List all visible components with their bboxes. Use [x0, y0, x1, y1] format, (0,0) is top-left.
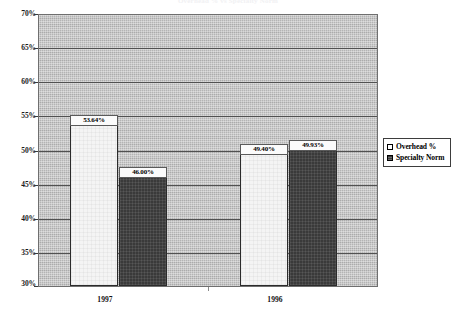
- data-label-1996-overhead: 49.40%: [240, 144, 288, 155]
- y-tick-label-50: 50%: [2, 147, 36, 155]
- x-tick-mark-mid: [208, 287, 209, 291]
- bar-1996-specialty-norm[interactable]: [289, 150, 337, 286]
- legend-swatch-icon-specialty-norm: [387, 155, 393, 161]
- gridline-65: [39, 48, 377, 49]
- bar-1997-specialty-norm[interactable]: [119, 177, 167, 286]
- x-tick-label-1996: 1996: [225, 295, 325, 304]
- y-tick-label-35: 35%: [2, 249, 36, 257]
- y-tick-label-40: 40%: [2, 215, 36, 223]
- y-tick-label-45: 45%: [2, 181, 36, 189]
- y-tick-label-65: 65%: [2, 44, 36, 52]
- y-tick-label-60: 60%: [2, 78, 36, 86]
- plot-area: 53.64% 46.00% 49.40% 49.93%: [38, 14, 378, 287]
- chart-title: Overhead % vs Specialty Norm: [0, 0, 456, 5]
- bar-1997-overhead[interactable]: [70, 125, 118, 286]
- data-label-1997-specialty-norm: 46.00%: [119, 167, 167, 178]
- legend-swatch-icon-overhead: [387, 144, 393, 150]
- y-tick-label-55: 55%: [2, 112, 36, 120]
- x-tick-label-1997: 1997: [55, 295, 155, 304]
- chart-container: Overhead % vs Specialty Norm 70% 65% 60%…: [0, 0, 456, 313]
- legend-item-overhead[interactable]: Overhead %: [387, 141, 448, 152]
- chart-legend: Overhead % Specialty Norm: [383, 138, 451, 167]
- gridline-60: [39, 82, 377, 83]
- legend-item-specialty-norm[interactable]: Specialty Norm: [387, 152, 448, 163]
- data-label-1997-overhead: 53.64%: [70, 115, 118, 126]
- y-axis: 70% 65% 60% 55% 50% 45% 40% 35% 30%: [0, 14, 36, 287]
- y-tick-label-70: 70%: [2, 10, 36, 18]
- bar-1996-overhead[interactable]: [240, 154, 288, 286]
- legend-label-overhead: Overhead %: [396, 142, 436, 151]
- y-tick-label-30: 30%: [2, 280, 36, 288]
- data-label-1996-specialty-norm: 49.93%: [289, 140, 337, 151]
- legend-label-specialty-norm: Specialty Norm: [396, 153, 444, 162]
